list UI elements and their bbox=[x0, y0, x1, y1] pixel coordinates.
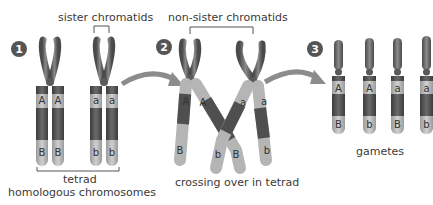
bracket-sister bbox=[94, 26, 109, 33]
svg-text:b: b bbox=[93, 147, 99, 158]
svg-text:A: A bbox=[335, 83, 342, 94]
svg-text:B: B bbox=[55, 147, 62, 158]
step-badge-2: 2 bbox=[156, 39, 172, 55]
svg-text:B: B bbox=[335, 119, 342, 130]
label-tetrad: tetrad bbox=[63, 173, 97, 186]
svg-text:b: b bbox=[264, 145, 270, 156]
svg-text:A: A bbox=[39, 95, 46, 106]
bracket-non-sister bbox=[190, 27, 253, 34]
svg-text:b: b bbox=[109, 147, 115, 158]
label-crossing-over: crossing over in tetrad bbox=[175, 176, 299, 189]
chromosome-AB: A A B B bbox=[36, 40, 64, 166]
svg-text:a: a bbox=[240, 97, 246, 108]
step-3: 3 A B A b a B bbox=[307, 36, 433, 158]
label-homologous-chromosomes: homologous chromosomes bbox=[8, 186, 156, 199]
svg-text:1: 1 bbox=[15, 43, 23, 56]
svg-text:A: A bbox=[55, 95, 62, 106]
chromatid-AB: A B bbox=[177, 84, 190, 160]
svg-text:B: B bbox=[177, 145, 184, 156]
svg-text:a: a bbox=[93, 95, 99, 106]
label-non-sister-chromatids: non-sister chromatids bbox=[168, 11, 288, 24]
meiosis-diagram: 1 sister chromatids A A B B bbox=[0, 0, 433, 205]
arrowhead-icon bbox=[310, 70, 326, 84]
svg-text:B: B bbox=[39, 147, 46, 158]
svg-text:a: a bbox=[261, 96, 267, 107]
svg-text:a: a bbox=[109, 95, 115, 106]
step-badge-3: 3 bbox=[307, 41, 323, 57]
step-1: 1 sister chromatids A A B B bbox=[8, 11, 156, 199]
label-sister-chromatids: sister chromatids bbox=[58, 11, 153, 24]
svg-text:b: b bbox=[366, 119, 372, 130]
svg-text:A: A bbox=[200, 97, 207, 108]
svg-text:B: B bbox=[394, 119, 401, 130]
gamete-AB: A B bbox=[332, 40, 345, 134]
svg-text:A: A bbox=[183, 96, 190, 107]
svg-text:B: B bbox=[233, 149, 240, 160]
label-gametes: gametes bbox=[356, 145, 404, 158]
arrow-icon bbox=[265, 72, 318, 82]
svg-text:b: b bbox=[215, 149, 221, 160]
gamete-Ab: A b bbox=[363, 38, 376, 134]
svg-text:a: a bbox=[423, 83, 429, 94]
arrow-icon bbox=[122, 74, 176, 84]
svg-text:2: 2 bbox=[160, 41, 168, 54]
gamete-aB: a B bbox=[391, 38, 404, 134]
gamete-ab: a b bbox=[420, 36, 433, 134]
svg-text:b: b bbox=[423, 119, 429, 130]
svg-text:A: A bbox=[366, 83, 373, 94]
bracket-tetrad bbox=[37, 167, 119, 171]
chromosome-ab: a a b b bbox=[90, 40, 118, 166]
chromatid-ab: a b bbox=[258, 86, 270, 160]
step-2: 2 non-sister chromatids A B A a bbox=[156, 11, 299, 189]
step-badge-1: 1 bbox=[11, 41, 27, 57]
svg-text:3: 3 bbox=[311, 43, 319, 56]
svg-text:a: a bbox=[394, 83, 400, 94]
